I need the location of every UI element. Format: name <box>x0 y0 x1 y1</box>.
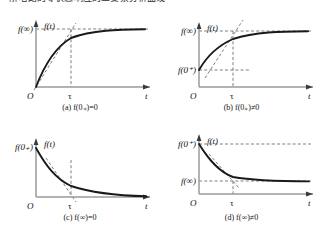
panel-b-caption: (b) f(0₊)≠0 <box>161 103 322 112</box>
y-label-final-value: f(∞) <box>181 176 196 186</box>
y-label-initial-value: f(0⁺) <box>178 65 196 75</box>
panel-d-plot: f(0⁺) f(∞) f(t) O τ t <box>161 124 322 212</box>
tangent-line <box>209 154 239 188</box>
panel-c: f(0₊) f(t) O τ t (c) f(∞)=0 <box>0 124 160 232</box>
origin-label: O <box>190 91 197 101</box>
origin-label: O <box>190 198 197 208</box>
y-label-final-value: f(∞) <box>181 26 196 36</box>
panel-c-caption: (c) f(∞)=0 <box>0 213 160 222</box>
x-axis-arrow-icon <box>306 85 313 90</box>
tau-tick-label: τ <box>230 91 234 101</box>
tau-tick-label: τ <box>68 91 72 101</box>
x-axis-label: t <box>145 91 148 101</box>
y-label-initial-value: f(0⁺) <box>178 139 196 149</box>
x-axis-label: t <box>308 91 311 101</box>
tau-tick-label: τ <box>230 198 234 208</box>
x-axis-label: t <box>145 201 148 211</box>
y-axis-label: f(t) <box>44 21 55 31</box>
tangent-line <box>34 23 76 90</box>
heading-text: 一阶电路的零状态响应的三要素分析曲线 <box>0 0 322 4</box>
y-axis-label: f(t) <box>207 23 218 33</box>
origin-label: O <box>27 201 34 211</box>
y-axis-arrow-icon <box>34 20 39 27</box>
y-label-initial-value: f(0₊) <box>15 142 33 152</box>
origin-label: O <box>27 91 34 101</box>
y-axis-label: f(t) <box>44 139 55 149</box>
heading-clipped-line: 一阶电路的零状态响应的三要素分析曲线 <box>0 0 322 4</box>
response-curve <box>36 29 145 87</box>
response-curve <box>199 144 309 181</box>
y-axis-arrow-icon <box>197 134 202 141</box>
y-label-final-value: f(∞) <box>18 24 33 34</box>
panel-a-plot: f(∞) f(t) O τ t <box>0 10 160 102</box>
x-axis-label: t <box>308 198 311 208</box>
response-curve <box>199 31 308 70</box>
panel-c-plot: f(0₊) f(t) O τ t <box>0 124 160 212</box>
panel-d-caption: (d) f(∞)≠0 <box>161 213 322 222</box>
response-curve <box>36 148 146 196</box>
x-axis-arrow-icon <box>143 85 150 90</box>
panel-a: f(∞) f(t) O τ t (a) f(0₊)=0 <box>0 10 160 118</box>
y-axis-arrow-icon <box>197 22 202 29</box>
panel-d: f(0⁺) f(∞) f(t) O τ t (d) f(∞)≠0 <box>161 124 322 232</box>
four-curve-figure: 一阶电路的零状态响应的三要素分析曲线 f(∞) f(t) O τ t (a) f… <box>0 0 322 235</box>
y-axis-arrow-icon <box>34 138 39 145</box>
panel-b: f(∞) f(0⁺) f(t) O τ t (b) f(0₊)≠0 <box>161 10 322 118</box>
panel-a-caption: (a) f(0₊)=0 <box>0 103 160 112</box>
x-axis-arrow-icon <box>306 192 313 197</box>
y-axis-label: f(t) <box>207 136 218 146</box>
tau-tick-label: τ <box>68 201 72 211</box>
panel-b-plot: f(∞) f(0⁺) f(t) O τ t <box>161 10 322 102</box>
